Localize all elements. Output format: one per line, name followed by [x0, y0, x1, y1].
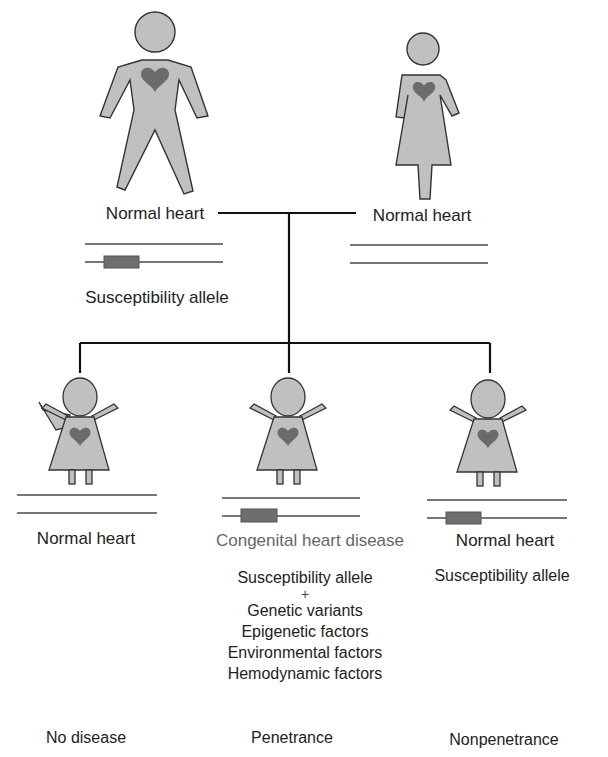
- factor-genetic-variants: Genetic variants: [228, 600, 383, 621]
- factor-hemodynamic: Hemodynamic factors: [228, 663, 383, 684]
- mother-status-label: Normal heart: [373, 206, 471, 226]
- susceptibility-allele-box: [446, 512, 481, 524]
- child1-chromosomes: [17, 495, 157, 513]
- female-head-icon: [407, 33, 439, 65]
- outcome-no-disease: No disease: [46, 729, 126, 747]
- factor-epigenetic: Epigenetic factors: [228, 621, 383, 642]
- male-head-icon: [135, 12, 175, 52]
- susceptibility-allele-box: [104, 256, 139, 268]
- mother-chromosomes: [350, 245, 488, 263]
- father-status-label: Normal heart: [106, 204, 204, 224]
- penetrance-factors-list: Susceptibility allele + Genetic variants…: [228, 567, 383, 684]
- child-figure-2: [250, 378, 326, 484]
- susceptibility-allele-box: [241, 509, 277, 522]
- outcome-nonpenetrance: Nonpenetrance: [449, 731, 558, 749]
- child3-status-label: Normal heart: [456, 531, 554, 551]
- child-figure-3: [450, 380, 526, 486]
- child-head-icon: [63, 378, 97, 416]
- child-head-icon: [471, 380, 505, 418]
- mother-figure: [396, 33, 459, 199]
- child2-chromosomes: [222, 498, 360, 522]
- outcome-penetrance: Penetrance: [251, 729, 333, 747]
- child2-status-label: Congenital heart disease: [216, 531, 404, 551]
- plus-sign: +: [228, 588, 383, 600]
- child3-allele-label: Susceptibility allele: [434, 567, 569, 585]
- father-figure: [100, 12, 208, 194]
- factor-susceptibility-allele: Susceptibility allele: [228, 567, 383, 588]
- factor-environmental: Environmental factors: [228, 642, 383, 663]
- child-head-icon: [271, 378, 305, 416]
- father-chromosomes: [85, 244, 223, 268]
- father-allele-label: Susceptibility allele: [85, 288, 229, 308]
- child-figure-1: [39, 378, 118, 484]
- child3-chromosomes: [427, 500, 567, 524]
- child1-status-label: Normal heart: [37, 529, 135, 549]
